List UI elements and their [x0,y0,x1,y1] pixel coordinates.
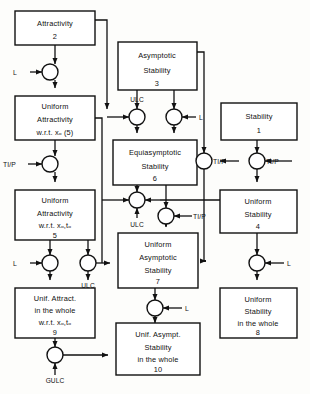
node-label-line3: in the whole [137,355,178,364]
edge-label-tip: TI/P [213,158,226,165]
junction-circle [42,255,58,271]
nodes-layer: Attractivity 2 Uniform Attractivity w.r.… [15,11,297,375]
node-number: 7 [156,277,160,286]
junction-circle [42,156,58,172]
node-label-line2: Stability [141,162,168,171]
junction-circle [158,208,174,224]
node-label-line3: w.r.t. xₒ,tₒ [38,221,71,230]
junction-circle [47,347,63,363]
node-label-line1: Equiasymptotic [129,148,181,157]
junction-circle [80,255,96,271]
junction-tip-left-of-stability[interactable]: TI/P [196,153,226,169]
edge-label-tip: TI/P [193,213,206,220]
node-label-line3: w.r.t. xₒ,tₒ [38,318,71,327]
edge-label-tip: TI/P [266,158,279,165]
junction-ulc-equiasymptotic[interactable]: ULC [129,96,145,125]
edge-label-tip: TI/P [3,161,16,168]
node-label-line2: Stability [144,343,171,352]
node-uniform-stability[interactable]: Uniform Stability 4 [220,190,297,233]
node-number: 1 [257,126,261,135]
node-number: 9 [53,328,57,337]
node-label-line3: w.r.t. xₒ (5) [36,128,74,137]
edge-label-ulc: ULC [130,221,144,228]
node-label-line3: Stability [144,266,171,275]
edge-uniform-attractivity-trunk [95,118,102,263]
node-label-line2: Stability [143,66,170,75]
junction-circle [129,109,145,125]
node-uniform-asymptotic-stability[interactable]: Uniform Asymptotic Stability 7 [118,233,198,288]
edge-attractivity-to-ulc-equiasymptotic [95,20,107,109]
node-label-line2: Stability [244,210,271,219]
node-label-line2: Attractivity [37,115,73,124]
node-attractivity[interactable]: Attractivity 2 [15,11,95,45]
node-label-line2: Attractivity [37,209,73,218]
node-label-line1: Uniform [245,197,272,206]
node-uniform-attractivity-xo-to[interactable]: Uniform Attractivity w.r.t. xₒ,tₒ 5 [15,190,95,240]
edge-label-ulc: ULC [130,96,144,103]
node-stability[interactable]: Stability 1 [221,103,297,140]
node-number: 3 [155,79,159,88]
node-uniform-attractivity-xo[interactable]: Uniform Attractivity w.r.t. xₒ (5) [15,96,95,140]
node-label: Stability [245,112,272,121]
node-label-line2: Stability [244,307,271,316]
stability-concepts-diagram: Attractivity 2 Uniform Attractivity w.r.… [0,0,310,394]
junction-circle [249,255,265,271]
node-unif-asympt-stability-in-the-whole[interactable]: Unif. Asympt. Stability in the whole 10 [116,323,200,375]
node-label-line1: Uniform [145,240,172,249]
node-number: 10 [154,365,163,374]
node-label-line1: Uniform [42,196,69,205]
node-number: 8 [256,328,260,337]
node-label-line2: Asymptotic [139,253,177,262]
edge-label-l: L [199,114,203,121]
edge-label-l: L [13,69,17,76]
junction-circle [42,64,58,80]
junction-circle [249,153,265,169]
edge-label-l: L [185,305,189,312]
junction-circle [129,192,145,208]
node-number: 4 [256,222,260,231]
junction-circle [147,300,163,316]
node-unif-attract-in-the-whole[interactable]: Unif. Attract. in the whole w.r.t. xₒ,tₒ… [15,288,95,338]
junction-tip-uniform-stability[interactable]: TI/P [249,153,279,169]
node-number: 2 [53,32,57,41]
diagram-canvas: Attractivity 2 Uniform Attractivity w.r.… [0,0,310,394]
edge-label-gulc: GULC [46,377,65,384]
junction-circle [196,153,212,169]
node-asymptotic-stability[interactable]: Asymptotic Stability 3 [118,42,197,90]
node-label-line2: in the whole [34,306,75,315]
junction-circle [166,109,182,125]
node-label-line1: Asymptotic [138,51,176,60]
node-label-line1: Unif. Asympt. [135,330,181,339]
node-label-line1: Unif. Attract. [34,294,76,303]
edge-label-l: L [13,260,17,267]
node-label: Attractivity [37,19,73,28]
node-number: 5 [53,231,57,240]
node-label-line3: in the whole [237,319,278,328]
edge-label-ulc: ULC [81,282,95,289]
node-label-line1: Uniform [42,102,69,111]
node-number: 6 [153,174,157,183]
edge-box3-to-tip-junction-left [197,52,204,153]
node-equiasymptotic-stability[interactable]: Equiasymptotic Stability 6 [113,140,197,185]
edge-label-l: L [287,260,291,267]
node-uniform-stability-in-the-whole[interactable]: Uniform Stability in the whole 8 [220,288,297,338]
node-label-line1: Uniform [245,295,272,304]
